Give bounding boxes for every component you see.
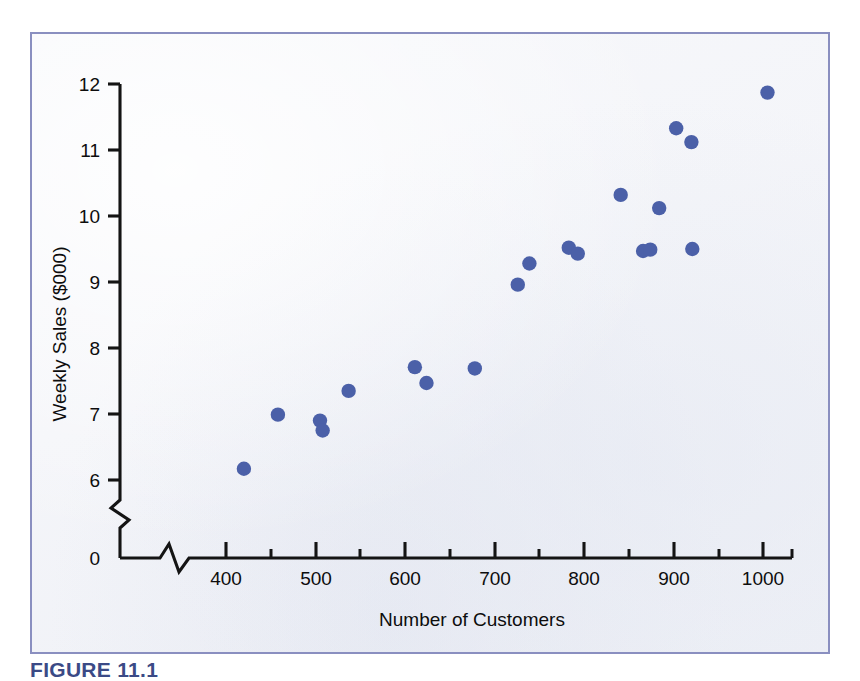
y-tick-label-9: 9 (89, 272, 100, 293)
x-tick-label-900: 900 (658, 568, 690, 589)
y-tick-label-12: 12 (79, 74, 100, 95)
data-point (408, 360, 422, 374)
y-tick-label-10: 10 (79, 206, 100, 227)
y-axis: 12 11 10 9 8 7 6 0 (79, 74, 129, 569)
data-point (613, 188, 627, 202)
y-tick-label-7: 7 (89, 404, 100, 425)
data-point (315, 423, 329, 437)
data-point (669, 121, 683, 135)
data-point (760, 85, 774, 99)
x-axis-title: Number of Customers (379, 609, 565, 630)
data-point (571, 246, 585, 260)
data-point (341, 384, 355, 398)
scatter-plot: 12 11 10 9 8 7 6 0 Weekly Sales ($000) (32, 34, 828, 652)
x-tick-label-400: 400 (210, 568, 242, 589)
x-tick-marks (226, 542, 763, 558)
data-point (685, 242, 699, 256)
y-tick-marks (108, 84, 120, 480)
data-point (419, 376, 433, 390)
y-axis-title: Weekly Sales ($000) (49, 247, 70, 422)
x-tick-label-500: 500 (300, 568, 332, 589)
data-point (237, 462, 251, 476)
y-tick-label-11: 11 (80, 140, 100, 161)
figure-panel: 12 11 10 9 8 7 6 0 Weekly Sales ($000) (30, 32, 830, 654)
figure-caption: FIGURE 11.1 (30, 658, 830, 681)
data-point (468, 361, 482, 375)
data-points-layer (237, 85, 775, 476)
data-point (652, 201, 666, 215)
y-tick-label-0: 0 (89, 548, 100, 569)
x-tick-label-1000: 1000 (742, 568, 784, 589)
y-tick-label-8: 8 (89, 338, 100, 359)
data-point (511, 277, 525, 291)
x-tick-label-800: 800 (568, 568, 600, 589)
data-point (522, 256, 536, 270)
x-tick-label-600: 600 (389, 568, 421, 589)
x-axis: 400 500 600 700 800 900 1000 (120, 542, 792, 589)
y-tick-label-6: 6 (89, 470, 100, 491)
x-tick-label-700: 700 (479, 568, 511, 589)
data-point (271, 407, 285, 421)
data-point (643, 242, 657, 256)
data-point (684, 135, 698, 149)
